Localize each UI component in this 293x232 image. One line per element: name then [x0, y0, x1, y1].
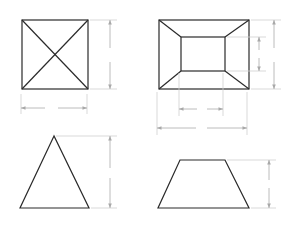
edge-line — [225, 71, 249, 89]
frustum-front-view — [158, 160, 276, 208]
height-dimension — [90, 20, 117, 89]
height-dimension — [56, 136, 117, 208]
inner-rectangle — [181, 37, 225, 71]
outer-width-dimension — [157, 92, 247, 135]
height-dimension — [227, 160, 276, 208]
pyramid-front-view — [20, 136, 117, 208]
projection-diagram — [0, 0, 293, 232]
pyramid-top-view — [21, 20, 117, 114]
outer-height-dimension — [251, 20, 281, 89]
frustum-top-view — [157, 20, 281, 135]
edge-line — [225, 20, 249, 37]
triangle-outline — [20, 136, 89, 208]
edge-line — [159, 20, 181, 37]
width-dimension — [21, 94, 87, 114]
inner-height-dimension — [227, 37, 266, 71]
edge-line — [159, 71, 181, 89]
inner-width-dimension — [179, 73, 223, 116]
trapezoid-outline — [158, 160, 249, 208]
